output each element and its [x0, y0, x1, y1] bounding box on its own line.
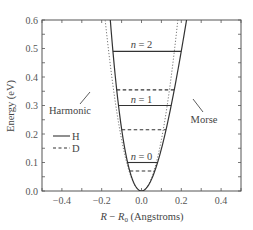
level-label-n2: n = 2: [131, 39, 153, 50]
level-label-n0: n = 0: [131, 151, 153, 162]
y-tick-label: 0.6: [26, 15, 39, 26]
x-tick-label: 0.0: [135, 195, 148, 206]
y-tick-label: 0.1: [26, 157, 39, 168]
legend-label-H: H: [72, 131, 80, 142]
harmonic-pointer: [80, 92, 90, 104]
energy-levels: n = 0n = 1n = 2: [113, 39, 181, 171]
y-tick-label: 0.0: [26, 186, 39, 197]
y-axis-title: Energy (eV): [5, 80, 17, 132]
y-tick-label: 0.3: [26, 100, 39, 111]
level-label-var: n: [131, 94, 136, 105]
y-tick-label: 0.4: [26, 72, 39, 83]
morse-annotation: Morse: [191, 114, 218, 125]
x-axis-title-unit: (Angstroms): [128, 211, 184, 223]
x-tick-label: 0.2: [175, 195, 188, 206]
x-axis-title-minus: −: [107, 211, 118, 222]
level-label-var: n: [131, 39, 136, 50]
harmonic-annotation: Harmonic: [49, 105, 91, 116]
level-label-n1: n = 1: [131, 94, 153, 105]
x-tick-label: −0.2: [93, 195, 111, 206]
morse-pointer: [193, 99, 203, 112]
energy-chart: −0.4−0.20.00.20.40.00.10.20.30.40.50.6 n…: [0, 0, 253, 230]
x-axis-title: R − R0 (Angstroms): [99, 211, 184, 224]
y-tick-label: 0.5: [26, 43, 39, 54]
y-tick-label: 0.2: [26, 129, 39, 140]
x-tick-label: −0.4: [53, 195, 71, 206]
legend-label-D: D: [72, 143, 80, 154]
x-tick-label: 0.4: [215, 195, 228, 206]
level-label-var: n: [131, 151, 136, 162]
